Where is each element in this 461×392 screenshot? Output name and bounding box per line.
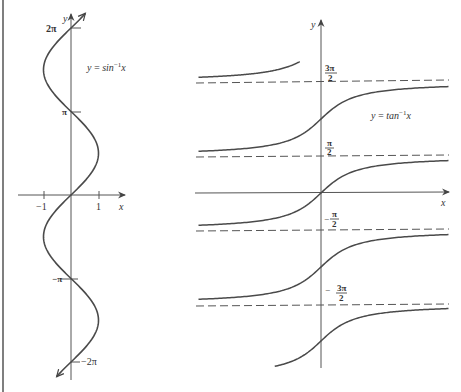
- frac-sign: −: [325, 285, 330, 295]
- frac-sign: −: [324, 214, 329, 224]
- arcsin-y-axis-label: y: [62, 13, 68, 24]
- arctan-x-axis-label: x: [440, 197, 446, 208]
- frac-num: 3π: [325, 63, 335, 73]
- arcsin-label-main: y = sin: [86, 62, 114, 73]
- arcsin-curve-label: y = sin−1x: [86, 61, 126, 73]
- asymptote-neg-3pi-over-2: [196, 304, 449, 306]
- arctan-panel: y x 3π 2 π 2 − π 2 − 3π 2 y = tan−1: [195, 19, 449, 368]
- arctan-branch-km2: [275, 309, 449, 367]
- asymptote-neg-pi-over-2: [196, 229, 449, 231]
- inverse-trig-figure: y 2π π −π −2π −1 1 x y = sin−1x y x 3π: [0, 0, 461, 392]
- asymptote-label-neg-pi-over-2: − π 2: [324, 209, 339, 229]
- arcsin-x-axis-label: x: [118, 201, 124, 212]
- arctan-branch-km1: [199, 235, 449, 300]
- asymptote-label-3pi-over-2: 3π 2: [325, 63, 337, 83]
- frac-num: π: [332, 209, 337, 219]
- asymptote-label-neg-3pi-over-2: − 3π 2: [325, 283, 347, 303]
- arctan-label-main: y = tan: [370, 110, 399, 121]
- asymptote-label-pi-over-2: π 2: [325, 138, 334, 157]
- arctan-y-axis-label: y: [310, 19, 316, 30]
- frac-den: 2: [339, 293, 344, 303]
- frac-den: 2: [327, 147, 332, 157]
- arcsin-tick-label-neg-pi: −π: [52, 274, 62, 284]
- arcsin-tick-label-neg1: −1: [36, 201, 47, 212]
- arctan-branch-k2: [199, 62, 300, 78]
- arcsin-tick-label-pi: π: [62, 107, 67, 117]
- arcsin-label-var: x: [120, 62, 126, 73]
- frac-den: 2: [332, 219, 337, 229]
- arctan-branch-k1: [199, 87, 449, 152]
- asymptote-3pi-over-2: [196, 80, 449, 83]
- arcsin-tick-label-neg-2pi: −2π: [81, 356, 97, 367]
- arcsin-tick-label-1: 1: [96, 201, 101, 212]
- frac-num: 3π: [337, 283, 347, 293]
- frac-den: 2: [328, 73, 333, 83]
- arctan-label-var: x: [405, 110, 411, 121]
- asymptote-pi-over-2: [196, 155, 449, 157]
- arcsin-panel: y 2π π −π −2π −1 1 x y = sin−1x: [18, 13, 126, 380]
- arctan-curve-label: y = tan−1x: [370, 109, 411, 121]
- arcsin-tick-label-2pi: 2π: [46, 23, 57, 34]
